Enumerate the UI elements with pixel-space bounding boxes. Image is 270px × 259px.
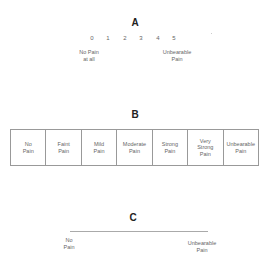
scale-a-title: A <box>131 17 138 28</box>
tick-4: 4 <box>156 35 159 41</box>
tick-3: 3 <box>139 35 142 41</box>
cell-unbearable-pain: Unbearable Pain <box>224 130 258 165</box>
scale-a-right-label: Unbearable Pain <box>163 49 191 62</box>
tick-5: 5 <box>172 35 175 41</box>
scale-c-left-label: No Pain <box>63 237 74 250</box>
cell-very-strong-pain: Very Strong Pain <box>188 130 223 165</box>
tick-1: 1 <box>106 35 109 41</box>
verbal-rating-table: No Pain Faint Pain Mild Pain Moderate Pa… <box>10 129 259 166</box>
scale-a-left-label: No Pain at all <box>79 49 99 62</box>
tick-0: 0 <box>90 35 93 41</box>
cell-faint-pain: Faint Pain <box>46 130 81 165</box>
scale-c-title: C <box>129 212 136 223</box>
cell-mild-pain: Mild Pain <box>82 130 117 165</box>
cell-strong-pain: Strong Pain <box>153 130 188 165</box>
cell-no-pain: No Pain <box>11 130 46 165</box>
stray-dot <box>211 33 212 34</box>
scale-b-title: B <box>131 109 138 120</box>
cell-moderate-pain: Moderate Pain <box>117 130 152 165</box>
tick-2: 2 <box>123 35 126 41</box>
visual-analog-line <box>70 231 208 232</box>
scale-c-right-label: Unbearable Pain <box>188 240 216 253</box>
